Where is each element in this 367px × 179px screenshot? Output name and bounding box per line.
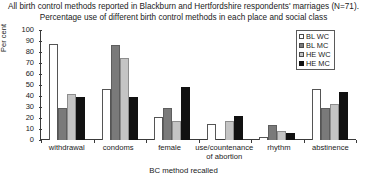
y-tick-label: 30 [26,103,34,111]
chart-subtitle: Percentage use of different birth contro… [0,12,367,23]
bar-bl-mc[interactable] [321,108,330,140]
bar-bl-wc[interactable] [154,117,163,140]
x-tick-label: rhythm [253,144,304,168]
bar-he-wc[interactable] [225,121,234,140]
bar-he-wc[interactable] [67,94,76,140]
x-axis-labels: withdrawalcondomsfemaleuse/countenance o… [41,144,356,168]
y-tick-label: 80 [26,48,34,56]
legend-swatch-icon [299,52,304,57]
bar-chart-figure: All birth control methods reported in Bl… [0,0,367,179]
bar-group [94,30,147,140]
bar-he-mc[interactable] [286,133,295,140]
legend-swatch-icon [299,34,304,39]
y-tick-label: 90 [26,37,34,45]
y-tick-label: 60 [26,70,34,78]
legend-label: HE WC [306,51,331,59]
y-tick-label: 70 [26,59,34,67]
y-tick-label: 20 [26,114,34,122]
legend-item[interactable]: HE MC [299,59,331,68]
x-axis-title: BC method recalled [0,166,367,175]
x-tick-label: condoms [92,144,143,168]
x-tick-label: abstinence [305,144,356,168]
bar-bl-wc[interactable] [312,89,321,140]
bar-group [41,30,94,140]
bar-he-mc[interactable] [234,116,243,140]
legend-item[interactable]: HE WC [299,50,331,59]
legend-item[interactable]: BL MC [299,41,331,50]
bar-bl-mc[interactable] [268,125,277,140]
y-tick-label: 0 [30,136,34,144]
x-tick-mark [146,140,147,143]
legend-label: BL MC [306,42,328,50]
y-tick-label: 40 [26,92,34,100]
legend-item[interactable]: BL WC [299,32,331,41]
bar-he-wc[interactable] [120,58,129,141]
bar-bl-mc[interactable] [58,108,67,140]
legend-swatch-icon [299,61,304,66]
y-tick-label: 50 [26,81,34,89]
x-tick-label: withdrawal [41,144,92,168]
legend-label: HE MC [306,60,330,68]
chart-legend: BL WCBL MCHE WCHE MC [296,30,335,70]
chart-title: All birth control methods reported in Bl… [0,1,367,12]
x-tick-label: female [144,144,195,168]
bar-he-mc[interactable] [339,92,348,140]
bar-he-mc[interactable] [129,97,138,140]
x-tick-mark [304,140,305,143]
bar-he-mc[interactable] [181,87,190,140]
bar-bl-mc[interactable] [111,45,120,140]
bar-he-wc[interactable] [277,131,286,140]
bar-he-mc[interactable] [76,97,85,140]
x-tick-mark [41,140,42,143]
x-tick-mark [356,140,357,143]
bar-group [199,30,252,140]
x-tick-label: use/countenance of abortion [195,144,253,168]
y-axis-ticks: 0102030405060708090100 [0,24,38,142]
y-tick-label: 100 [21,26,34,34]
bar-bl-wc[interactable] [102,89,111,140]
y-tick-label: 10 [26,125,34,133]
x-tick-mark [94,140,95,143]
bar-group [146,30,199,140]
bar-bl-mc[interactable] [163,108,172,140]
legend-swatch-icon [299,43,304,48]
bar-he-wc[interactable] [172,121,181,140]
bar-he-wc[interactable] [330,104,339,140]
legend-label: BL WC [306,33,329,41]
bar-bl-wc[interactable] [207,124,216,141]
bar-bl-wc[interactable] [49,44,58,140]
chart-titles: All birth control methods reported in Bl… [0,1,367,23]
